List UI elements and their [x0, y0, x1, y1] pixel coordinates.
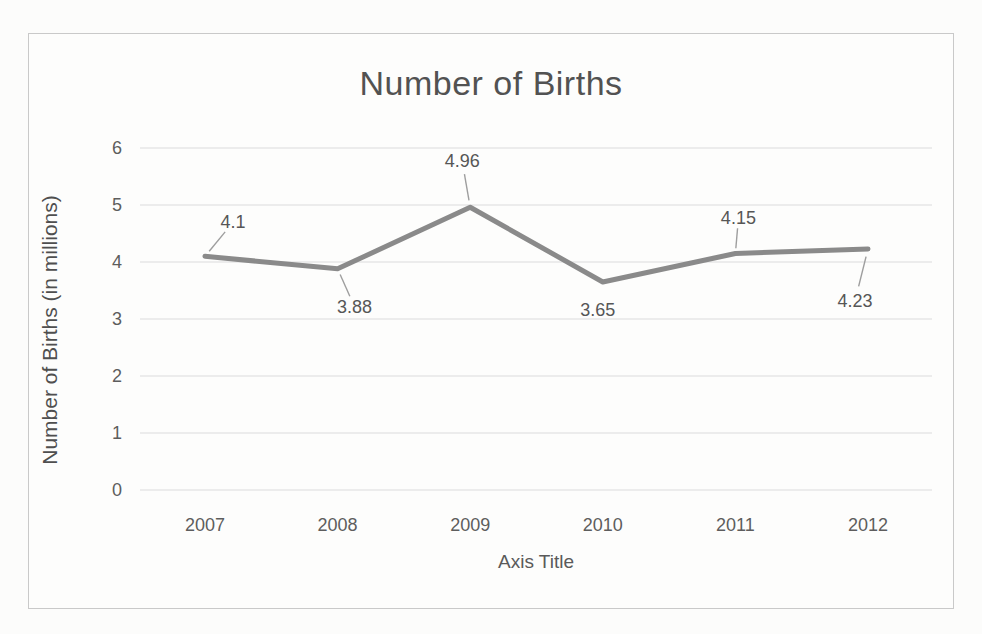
y-axis-title: Number of Births (in millions) [38, 195, 62, 465]
data-point-label: 3.65 [580, 299, 615, 320]
data-point-label: 4.23 [837, 290, 872, 311]
x-tick-label: 2010 [563, 515, 643, 536]
y-tick-label: 0 [82, 480, 122, 501]
x-axis-title: Axis Title [498, 551, 574, 573]
data-point-label: 4.15 [721, 208, 756, 229]
data-point-label: 4.1 [220, 212, 245, 233]
y-tick-label: 5 [82, 195, 122, 216]
x-tick-label: 2008 [298, 515, 378, 536]
y-tick-label: 1 [82, 423, 122, 444]
y-tick-label: 2 [82, 366, 122, 387]
data-point-label: 3.88 [337, 296, 372, 317]
chart-screenshot: Number of Births Number of Births (in mi… [0, 0, 982, 634]
y-tick-label: 3 [82, 309, 122, 330]
x-tick-label: 2007 [165, 515, 245, 536]
y-tick-label: 4 [82, 252, 122, 273]
y-tick-label: 6 [82, 138, 122, 159]
x-tick-label: 2009 [430, 515, 510, 536]
x-tick-label: 2012 [828, 515, 908, 536]
data-point-label: 4.96 [445, 151, 480, 172]
x-tick-label: 2011 [695, 515, 775, 536]
chart-title: Number of Births [0, 64, 982, 103]
